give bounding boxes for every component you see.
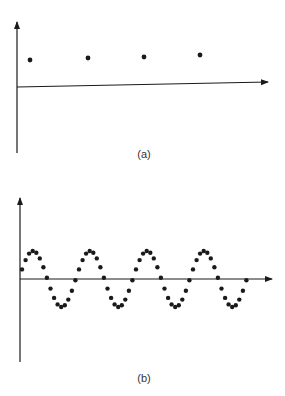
sample-dot	[166, 296, 170, 300]
sample-dot	[123, 297, 127, 301]
sample-dot	[180, 297, 184, 301]
sample-dot	[63, 303, 67, 307]
sample-dot	[45, 276, 49, 280]
sample-dot	[112, 302, 116, 306]
sample-dot	[198, 53, 203, 58]
sample-dot	[219, 286, 223, 290]
sample-dot	[95, 256, 99, 260]
sample-dot	[86, 56, 91, 61]
sample-dot	[234, 303, 238, 307]
sample-dot	[205, 251, 209, 255]
sample-dot	[48, 286, 52, 290]
sample-dot	[241, 289, 245, 293]
sample-dot	[28, 58, 33, 63]
sample-dot	[137, 258, 141, 262]
sample-dot	[109, 296, 113, 300]
sample-dot	[159, 276, 163, 280]
sample-dot	[155, 265, 159, 269]
sample-dot	[27, 251, 31, 255]
sample-dot	[223, 296, 227, 300]
sample-dot	[184, 289, 188, 293]
panel-b-plot	[20, 198, 272, 362]
sample-dot	[41, 265, 45, 269]
panel-a-plot	[17, 22, 268, 153]
panel-b-caption: (b)	[124, 372, 164, 384]
sample-dot	[177, 303, 181, 307]
sample-dot	[191, 267, 195, 271]
sample-dot	[130, 278, 134, 282]
sample-dot	[216, 276, 220, 280]
panel-a-caption: (a)	[124, 148, 164, 160]
sample-dot	[55, 302, 59, 306]
sample-dot	[34, 251, 38, 255]
sample-dot	[194, 258, 198, 262]
sample-dot	[169, 302, 173, 306]
sample-dot	[102, 276, 106, 280]
sample-dot	[105, 286, 109, 290]
sample-dot	[148, 251, 152, 255]
sample-dot	[120, 303, 124, 307]
sample-dot	[23, 258, 27, 262]
sample-dot	[198, 251, 202, 255]
sample-dot	[142, 55, 147, 60]
sample-dot	[91, 251, 95, 255]
sample-dot	[80, 258, 84, 262]
sample-dot	[127, 289, 131, 293]
sample-dot	[244, 278, 248, 282]
sample-dot	[141, 251, 145, 255]
sample-dot	[187, 278, 191, 282]
sample-dot	[70, 289, 74, 293]
sample-dot	[77, 267, 81, 271]
sample-dot	[212, 265, 216, 269]
sample-dot	[38, 256, 42, 260]
sample-dot	[152, 256, 156, 260]
sample-dot	[237, 297, 241, 301]
sample-dot	[66, 297, 70, 301]
sample-dot	[98, 265, 102, 269]
sample-dot	[162, 286, 166, 290]
sample-dot	[20, 267, 24, 271]
sample-dot	[73, 278, 77, 282]
sample-dot	[209, 256, 213, 260]
x-axis-arrow-icon	[17, 82, 268, 87]
sample-dot	[134, 267, 138, 271]
sample-dot	[52, 296, 56, 300]
sampling-figure	[0, 0, 285, 396]
sample-dot	[226, 302, 230, 306]
sample-dot	[84, 251, 88, 255]
